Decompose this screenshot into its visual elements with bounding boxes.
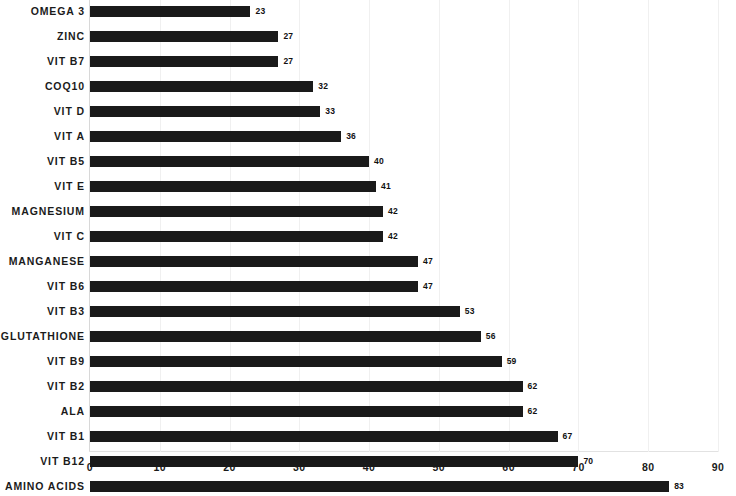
bar	[90, 356, 502, 367]
bar-row: OMEGA 323	[0, 0, 736, 24]
bar-track: 53	[90, 299, 718, 324]
bar-track: 27	[90, 24, 718, 49]
x-axis: 0102030405060708090	[0, 452, 736, 484]
x-tick-label: 60	[489, 461, 529, 473]
bar-track: 41	[90, 174, 718, 199]
bar-value-label: 23	[255, 6, 265, 17]
bar-value-label: 56	[486, 331, 496, 342]
category-label: VIT D	[0, 99, 85, 124]
bar	[90, 56, 278, 67]
bar-value-label: 59	[507, 356, 517, 367]
bar-row: VIT B647	[0, 274, 736, 299]
bar-track: 42	[90, 199, 718, 224]
bar	[90, 206, 383, 217]
bar	[90, 81, 313, 92]
bar-track: 23	[90, 0, 718, 24]
bar	[90, 6, 250, 17]
x-tick-label: 50	[419, 461, 459, 473]
bar-value-label: 27	[283, 31, 293, 42]
bar	[90, 406, 523, 417]
bar-value-label: 53	[465, 306, 475, 317]
bar-track: 33	[90, 99, 718, 124]
x-tick-label: 10	[140, 461, 180, 473]
bar-value-label: 27	[283, 56, 293, 67]
category-label: ALA	[0, 399, 85, 424]
category-label: VIT B2	[0, 374, 85, 399]
category-label: OMEGA 3	[0, 0, 85, 24]
bar	[90, 231, 383, 242]
bar-value-label: 62	[528, 381, 538, 392]
bar-row: VIT B727	[0, 49, 736, 74]
bar-value-label: 41	[381, 181, 391, 192]
bar-row: VIT E41	[0, 174, 736, 199]
bar	[90, 381, 523, 392]
bar-track: 32	[90, 74, 718, 99]
bar-row: VIT B262	[0, 374, 736, 399]
x-tick-label: 40	[349, 461, 389, 473]
category-label: MANGANESE	[0, 249, 85, 274]
bar-value-label: 47	[423, 256, 433, 267]
category-label: VIT B1	[0, 424, 85, 449]
bar-track: 36	[90, 124, 718, 149]
bar	[90, 156, 369, 167]
bar	[90, 256, 418, 267]
bar	[90, 31, 278, 42]
x-tick-label: 0	[70, 461, 110, 473]
bar	[90, 106, 320, 117]
bar-row: VIT D33	[0, 99, 736, 124]
bar-track: 27	[90, 49, 718, 74]
plot-area: OMEGA 323ZINC27VIT B727COQ1032VIT D33VIT…	[0, 0, 736, 452]
bar-row: MANGANESE47	[0, 249, 736, 274]
bar-track: 56	[90, 324, 718, 349]
bar-row: VIT B959	[0, 349, 736, 374]
bar-value-label: 32	[318, 81, 328, 92]
bar-value-label: 40	[374, 156, 384, 167]
category-label: VIT B5	[0, 149, 85, 174]
bar-value-label: 42	[388, 206, 398, 217]
bar-track: 62	[90, 374, 718, 399]
bar-track: 62	[90, 399, 718, 424]
bar-row: VIT B540	[0, 149, 736, 174]
bar-track: 40	[90, 149, 718, 174]
bar-track: 47	[90, 274, 718, 299]
bar-row: MAGNESIUM42	[0, 199, 736, 224]
category-label: VIT B3	[0, 299, 85, 324]
bar-row: VIT B353	[0, 299, 736, 324]
bar-row: COQ1032	[0, 74, 736, 99]
category-label: VIT B7	[0, 49, 85, 74]
bar-track: 67	[90, 424, 718, 449]
category-label: VIT B6	[0, 274, 85, 299]
bar	[90, 281, 418, 292]
bar-value-label: 67	[563, 431, 573, 442]
category-label: VIT B9	[0, 349, 85, 374]
x-tick-label: 90	[698, 461, 736, 473]
x-tick-label: 80	[628, 461, 668, 473]
bar	[90, 131, 341, 142]
bar-value-label: 62	[528, 406, 538, 417]
bar-row: ALA62	[0, 399, 736, 424]
bar	[90, 431, 558, 442]
x-tick-label: 20	[210, 461, 250, 473]
category-label: COQ10	[0, 74, 85, 99]
bar-value-label: 36	[346, 131, 356, 142]
x-tick-label: 70	[558, 461, 598, 473]
bar	[90, 181, 376, 192]
category-label: MAGNESIUM	[0, 199, 85, 224]
bar-row: ZINC27	[0, 24, 736, 49]
bar-row: VIT A36	[0, 124, 736, 149]
category-label: VIT C	[0, 224, 85, 249]
x-tick-label: 30	[279, 461, 319, 473]
category-label: ZINC	[0, 24, 85, 49]
bar-track: 47	[90, 249, 718, 274]
category-label: GLUTATHIONE	[0, 324, 85, 349]
bar	[90, 331, 481, 342]
bar-row: VIT C42	[0, 224, 736, 249]
bar-row: VIT B167	[0, 424, 736, 449]
bar-value-label: 33	[325, 106, 335, 117]
bar-track: 59	[90, 349, 718, 374]
bar-row: GLUTATHIONE56	[0, 324, 736, 349]
bar-value-label: 47	[423, 281, 433, 292]
category-label: VIT A	[0, 124, 85, 149]
bar-track: 42	[90, 224, 718, 249]
